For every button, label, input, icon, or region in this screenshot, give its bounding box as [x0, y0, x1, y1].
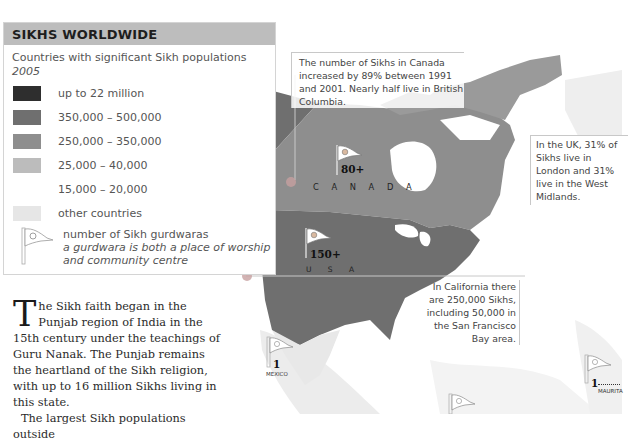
mexico-gurdwara-count: 1 [273, 358, 280, 370]
gurdwara-legend-text: number of Sikh gurdwaras a gurdwara is b… [63, 228, 270, 267]
canada-gurdwara-count: 80+ [341, 163, 364, 175]
canada-annotation: The number of Sikhs in Canada increased … [291, 52, 464, 108]
mexico-label: MEXICO [266, 371, 288, 377]
legend-item-label: 25,000 – 40,000 [58, 159, 147, 172]
gurdwara-flag-icon [448, 392, 478, 414]
legend-item-label: up to 22 million [58, 87, 144, 100]
legend-subtitle: Countries with significant Sikh populati… [4, 45, 275, 79]
mauritania-leader-line [598, 384, 620, 385]
gurdwara-legend-desc-2: and community centre [63, 254, 270, 267]
canada-label: C A N A D A [313, 182, 417, 192]
legend-swatch [13, 206, 41, 221]
legend-title: SIKHS WORLDWIDE [4, 23, 275, 45]
legend-item-25k-40k: 25,000 – 40,000 [13, 157, 147, 173]
legend-swatch [13, 134, 41, 149]
gurdwara-flag-icon [266, 335, 296, 369]
legend-swatch [13, 110, 41, 125]
legend-item-up-to-22m: up to 22 million [13, 85, 144, 101]
legend-item-15k-20k: 15,000 – 20,000 [13, 181, 147, 197]
gurdwara-flag-icon [21, 226, 57, 266]
uk-annotation: In the UK, 31% of Sikhs live in London a… [530, 135, 628, 205]
intro-paragraph-1: he Sikh faith began in the Punjab region… [13, 299, 221, 411]
gurdwara-legend-label: number of Sikh gurdwaras [63, 228, 270, 241]
drop-cap: T [13, 300, 36, 328]
gurdwara-flag-icon [584, 353, 614, 387]
california-annotation: In California there are 250,000 Sikhs, i… [420, 280, 520, 345]
legend-subtitle-text: Countries with significant Sikh populati… [12, 51, 275, 65]
gurdwara-legend-desc-1: a gurdwara is both a place of worship [63, 241, 270, 254]
legend-item-label: 15,000 – 20,000 [58, 183, 147, 196]
legend-item-label: 250,000 – 350,000 [58, 135, 161, 148]
intro-text: T he Sikh faith began in the Punjab regi… [13, 299, 221, 442]
legend-item-label: other countries [58, 207, 142, 220]
legend-item-250k-350k: 250,000 – 350,000 [13, 133, 161, 149]
legend-panel: SIKHS WORLDWIDE Countries with significa… [3, 22, 276, 275]
mauritania-label: MAURITA [598, 388, 623, 394]
legend-swatch [13, 86, 41, 101]
usa-label: U S A [306, 265, 361, 274]
usa-gurdwara-count: 150+ [310, 248, 341, 260]
legend-item-label: 350,000 – 500,000 [58, 111, 161, 124]
intro-paragraph-2: The largest Sikh populations outside [13, 411, 221, 442]
legend-swatch [13, 182, 41, 197]
legend-swatch [13, 158, 41, 173]
legend-item-350k-500k: 350,000 – 500,000 [13, 109, 161, 125]
legend-year: 2005 [12, 65, 275, 79]
legend-item-other: other countries [13, 205, 142, 221]
